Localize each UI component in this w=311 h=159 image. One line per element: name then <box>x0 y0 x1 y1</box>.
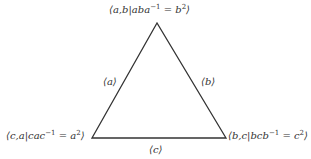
edge-label-bottom: ⟨c⟩ <box>149 145 162 155</box>
edge-label-left: ⟨a⟩ <box>103 77 117 87</box>
vertex-label-top: ⟨a,b|aba−1 = b2⟩ <box>109 4 190 15</box>
vertex-label-left: ⟨c,a|cac−1 = a2⟩ <box>6 130 85 141</box>
edge-label-right: ⟨b⟩ <box>201 77 215 87</box>
vertex-label-right: ⟨b,c|bcb−1 = c2⟩ <box>228 130 308 141</box>
